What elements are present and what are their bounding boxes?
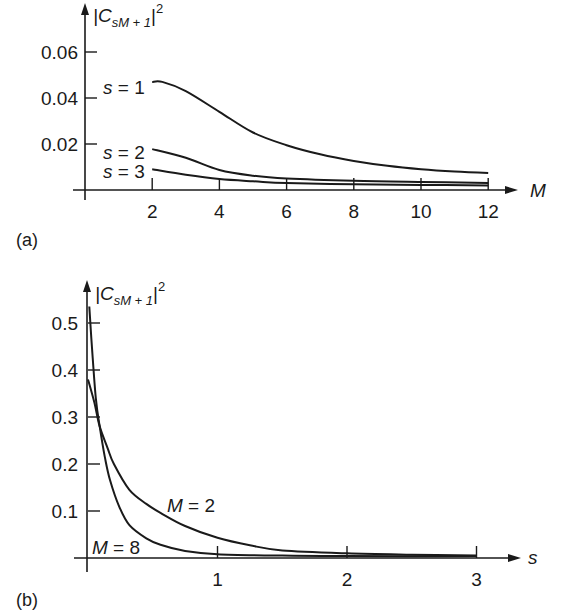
x-tick-label: 12 [478, 201, 499, 222]
x-tick-label: 8 [349, 201, 360, 222]
y-axis-arrow-icon [83, 280, 91, 292]
x-axis-arrow-icon [508, 554, 521, 562]
curve-m8 [89, 307, 476, 557]
y-tick-label: 0.1 [52, 501, 78, 522]
curve-m2 [88, 379, 477, 555]
x-tick-label: 4 [214, 201, 225, 222]
x-tick-label: 10 [410, 201, 431, 222]
x-tick-label: 2 [342, 569, 353, 590]
series-label-m2: M = 2 [167, 495, 215, 516]
series-label-s2: s = 2 [103, 142, 145, 163]
curve-s1 [152, 81, 488, 173]
y-axis-label: |CsM + 1|2 [93, 1, 163, 30]
x-tick-label: 3 [471, 569, 482, 590]
x-axis-label: s [528, 547, 538, 568]
y-tick-label: 0.04 [41, 88, 78, 109]
y-tick-label: 0.2 [52, 454, 78, 475]
panel-b-axes [74, 280, 521, 572]
panel-label-b: (b) [16, 590, 38, 610]
panel-b-chart: 0.10.20.30.40.5 123 s |CsM + 1|2 M = 2 M… [16, 279, 538, 610]
figure: 0.020.040.06 24681012 M |CsM + 1|2 s = 1… [0, 0, 582, 616]
series-label-s1: s = 1 [103, 77, 145, 98]
x-tick-label: 1 [212, 569, 223, 590]
y-ticks: 0.020.040.06 [41, 42, 97, 155]
y-axis-label: |CsM + 1|2 [95, 279, 165, 308]
panel-label-a: (a) [16, 230, 38, 250]
y-axis-arrow-icon [81, 3, 89, 15]
curves [152, 81, 488, 185]
series-label-m8: M = 8 [92, 537, 140, 558]
y-tick-label: 0.3 [52, 407, 78, 428]
y-tick-label: 0.5 [52, 313, 78, 334]
panel-a-chart: 0.020.040.06 24681012 M |CsM + 1|2 s = 1… [16, 1, 546, 250]
series-label-s3: s = 3 [103, 161, 145, 182]
y-tick-label: 0.4 [52, 360, 79, 381]
x-tick-label: 2 [147, 201, 158, 222]
y-tick-label: 0.02 [41, 134, 78, 155]
y-tick-label: 0.06 [41, 42, 78, 63]
curves [88, 307, 477, 557]
x-tick-label: 6 [281, 201, 292, 222]
x-axis-label: M [530, 180, 546, 201]
x-axis-arrow-icon [505, 186, 518, 194]
